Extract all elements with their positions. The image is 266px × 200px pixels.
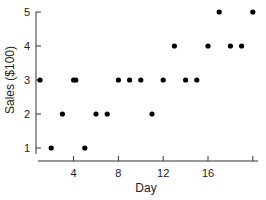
y-axis-label: Sales ($100) [3, 46, 17, 114]
data-point [161, 77, 166, 82]
data-point [82, 145, 87, 150]
data-point [138, 77, 143, 82]
scatter-chart: 12345 481216 Day Sales ($100) [0, 0, 266, 200]
data-point [105, 111, 110, 116]
x-tick-label: 12 [157, 167, 169, 179]
x-tick-label: 16 [202, 167, 214, 179]
data-point [37, 77, 42, 82]
data-point [116, 77, 121, 82]
y-tick-label: 1 [24, 142, 30, 154]
data-point [239, 43, 244, 48]
data-point [93, 111, 98, 116]
data-point [194, 77, 199, 82]
x-tick-label: 8 [115, 167, 121, 179]
data-point [250, 9, 255, 14]
data-point [149, 111, 154, 116]
data-point [217, 9, 222, 14]
x-axis: 481216 [38, 156, 258, 179]
data-point [172, 43, 177, 48]
y-tick-label: 2 [24, 108, 30, 120]
x-tick-label: 4 [71, 167, 77, 179]
data-point [49, 145, 54, 150]
data-point [60, 111, 65, 116]
data-point [205, 43, 210, 48]
x-axis-label: Day [135, 181, 156, 195]
data-point [127, 77, 132, 82]
data-point [228, 43, 233, 48]
data-point [183, 77, 188, 82]
y-tick-label: 3 [24, 74, 30, 86]
data-point [73, 77, 78, 82]
y-tick-label: 5 [24, 6, 30, 18]
data-points [37, 9, 255, 150]
y-tick-label: 4 [24, 40, 30, 52]
